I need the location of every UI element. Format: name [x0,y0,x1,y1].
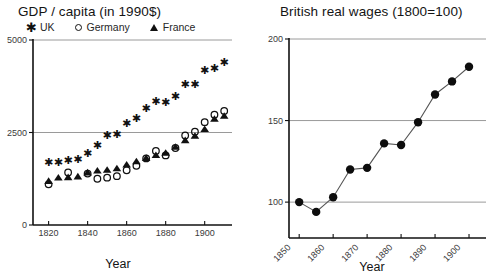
data-points-gdp: ✱✱✱✱✱✱✱✱✱✱✱✱✱✱✱✱✱✱✱ [44,56,229,187]
data-point-france [93,167,102,174]
x-tick-label-1860: 1860 [117,228,137,238]
data-point-germany [94,175,101,182]
x-tick-label-1890: 1890 [407,242,428,263]
y-tick-label-0: 0 [22,220,27,230]
data-point-france [74,173,83,180]
data-point-uk: ✱ [112,128,121,141]
data-point-uk: ✱ [93,139,102,152]
figure-container: GDP / capita (in 1990$) ✱ UK Germany Fra… [0,0,494,279]
tick-labels-wages: 100150200185018601870188018901900 [268,34,462,263]
data-point-wages [363,164,371,172]
x-tick-label-1880: 1880 [156,228,176,238]
data-point-uk: ✱ [200,64,209,77]
x-tick-label-1870: 1870 [339,242,360,263]
data-point-wages [295,198,303,206]
data-point-wages [346,165,354,173]
data-point-france [132,158,141,165]
data-point-uk: ✱ [122,117,131,130]
data-point-france [44,177,53,184]
data-point-uk: ✱ [181,78,190,91]
plot-area-gdp: 02500500018201840186018801900 ✱✱✱✱✱✱✱✱✱✱… [0,0,244,279]
x-tick-label-1900: 1900 [441,242,462,263]
y-tick-label-5000: 5000 [7,35,27,45]
chart-panel-british-real-wages: British real wages (1800=100) 1001502001… [244,0,494,279]
data-point-uk: ✱ [73,153,82,166]
data-point-wages [397,141,405,149]
x-tick-label-1860: 1860 [305,242,326,263]
x-tick-label-1900: 1900 [195,228,215,238]
data-point-wages [465,63,473,71]
chart-panel-gdp-per-capita: GDP / capita (in 1990$) ✱ UK Germany Fra… [0,0,244,279]
data-point-uk: ✱ [54,156,63,169]
data-point-germany [123,167,130,174]
data-point-uk: ✱ [190,78,199,91]
data-point-uk: ✱ [161,96,170,109]
data-point-germany [104,174,111,181]
data-point-uk: ✱ [210,62,219,75]
data-point-uk: ✱ [171,90,180,103]
data-point-france [122,161,131,168]
data-point-wages [312,208,320,216]
data-point-germany [114,173,121,180]
data-point-france [54,174,63,181]
data-point-wages [329,193,337,201]
axes-wages [289,38,486,238]
y-tick-label-2500: 2500 [7,128,27,138]
x-tick-label-1850: 1850 [271,242,292,263]
plot-area-wages: 100150200185018601870188018901900 Year [244,0,494,279]
data-point-france [113,165,122,172]
data-point-france [161,149,170,156]
y-tick-label-150: 150 [268,116,283,126]
data-point-wages [414,118,422,126]
data-point-uk: ✱ [83,147,92,160]
x-tick-label-1840: 1840 [78,228,98,238]
y-tick-label-200: 200 [268,34,283,44]
data-point-wages [380,139,388,147]
data-point-uk: ✱ [142,102,151,115]
data-point-wages [431,90,439,98]
gridlines-wages [289,39,486,202]
data-point-uk: ✱ [44,156,53,169]
x-tick-label-1820: 1820 [39,228,59,238]
data-point-uk: ✱ [220,56,229,69]
data-point-france [200,126,209,133]
y-tick-label-100: 100 [268,197,283,207]
data-point-germany [201,119,208,126]
x-axis-title-wages: Year [359,260,384,274]
data-point-wages [448,77,456,85]
ticks-wages [285,39,469,238]
data-point-uk: ✱ [64,154,73,167]
data-point-uk: ✱ [151,95,160,108]
data-point-france [103,166,112,173]
data-point-uk: ✱ [103,129,112,142]
data-point-uk: ✱ [132,112,141,125]
x-axis-title-gdp: Year [105,257,130,271]
